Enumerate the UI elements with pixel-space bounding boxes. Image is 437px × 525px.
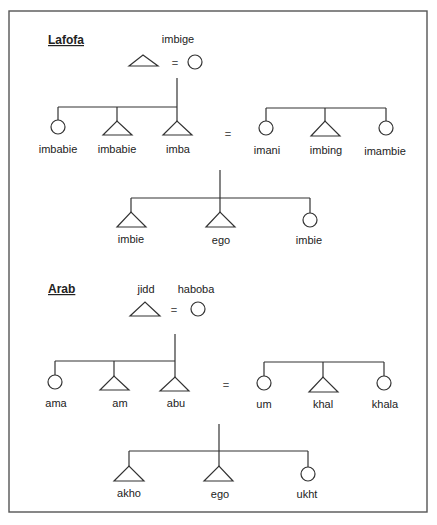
male-triangle-icon — [114, 466, 144, 481]
female-circle-icon — [259, 121, 273, 135]
female-circle-icon — [188, 55, 202, 69]
female-circle-icon — [48, 375, 62, 389]
male-triangle-icon — [117, 212, 146, 227]
female-circle-icon — [301, 467, 315, 481]
male-triangle-icon — [204, 466, 233, 481]
kin-label: imbabie — [98, 143, 137, 155]
kin-label: am — [112, 397, 127, 409]
kin-label: imbie — [296, 234, 322, 246]
marriage-symbol: = — [225, 128, 231, 140]
male-triangle-icon — [100, 376, 129, 390]
kin-label: khala — [372, 398, 399, 410]
section-arab: Arab jidd haboba = ama am abu = um khal … — [45, 282, 399, 500]
kin-label: imbie — [118, 233, 144, 245]
male-triangle-icon — [163, 121, 192, 135]
kin-label: imba — [166, 143, 191, 155]
male-triangle-icon — [160, 377, 189, 391]
grandparent-label: imbige — [162, 33, 194, 45]
section-lafofa: Lafofa imbige = imbabie imbabie imba = i… — [39, 33, 406, 246]
marriage-symbol: = — [172, 57, 178, 69]
female-circle-icon — [51, 120, 65, 134]
male-triangle-icon — [129, 55, 158, 66]
male-triangle-icon — [103, 121, 132, 135]
kinship-diagram: Lafofa imbige = imbabie imbabie imba = i… — [0, 0, 437, 525]
ego-label: ego — [212, 234, 230, 246]
male-triangle-icon — [206, 212, 235, 227]
female-circle-icon — [257, 376, 271, 390]
male-triangle-icon — [130, 302, 160, 316]
kin-label: um — [256, 398, 271, 410]
section-title-lafofa: Lafofa — [48, 33, 84, 47]
kin-label: imbabie — [39, 143, 78, 155]
male-triangle-icon — [311, 121, 340, 136]
kin-label: ama — [45, 397, 67, 409]
female-circle-icon — [377, 376, 391, 390]
kin-label: imambie — [364, 145, 406, 157]
male-triangle-icon — [309, 377, 338, 392]
kin-label: ukht — [297, 488, 318, 500]
kin-label: abu — [167, 397, 185, 409]
marriage-symbol: = — [171, 304, 177, 316]
kin-label: imani — [254, 144, 280, 156]
diagram-frame — [9, 11, 427, 512]
kin-label: khal — [313, 398, 333, 410]
ego-label: ego — [211, 488, 229, 500]
female-circle-icon — [303, 213, 317, 227]
female-circle-icon — [379, 121, 393, 135]
marriage-symbol: = — [223, 379, 229, 391]
grandparent-male-label: jidd — [136, 283, 154, 295]
female-circle-icon — [191, 302, 205, 316]
kin-label: akho — [117, 487, 141, 499]
grandparent-female-label: haboba — [178, 283, 216, 295]
section-title-arab: Arab — [48, 282, 75, 296]
kin-label: imbing — [310, 144, 342, 156]
